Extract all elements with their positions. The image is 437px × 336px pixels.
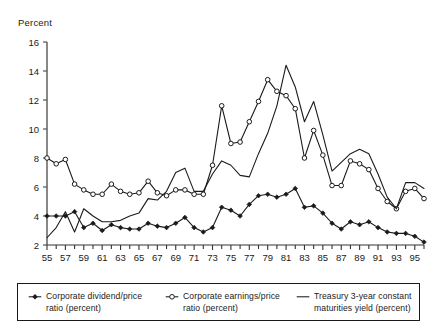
series-marker (339, 183, 344, 188)
legend-item: Corporate earnings/price ratio (percent) (165, 291, 280, 314)
x-axis: 5557596163656769717375777981838587899193… (42, 245, 424, 263)
series-marker (413, 186, 418, 191)
series-marker (72, 182, 77, 187)
series-marker (367, 167, 372, 172)
series-marker (54, 214, 59, 219)
x-axis-tick-label: 65 (134, 252, 145, 263)
series-marker (385, 230, 390, 235)
line-chart-plot: 246810121416 555759616365676971737577798… (0, 0, 437, 290)
series-marker (302, 156, 307, 161)
series-marker (422, 196, 427, 201)
data-series-group (45, 65, 427, 244)
x-axis-tick-label: 59 (78, 252, 89, 263)
series-marker (192, 192, 197, 197)
y-axis-tick-label: 16 (28, 37, 39, 48)
legend-item: Corporate dividend/price ratio (percent) (28, 291, 142, 314)
series-marker (63, 157, 68, 162)
series-marker (45, 214, 50, 219)
series-marker (118, 189, 123, 194)
series-marker (403, 231, 408, 236)
x-axis-tick-label: 73 (207, 252, 218, 263)
x-axis-tick-label: 55 (42, 252, 53, 263)
x-axis-tick-label: 63 (115, 252, 126, 263)
chart-series (45, 77, 427, 211)
series-marker (127, 227, 132, 232)
series-line (47, 80, 424, 209)
series-marker (118, 225, 123, 230)
open-circle-line-icon (165, 291, 179, 303)
x-axis-tick-label: 87 (336, 252, 347, 263)
x-axis-tick-label: 77 (244, 252, 255, 263)
series-marker (164, 225, 169, 230)
series-marker (45, 156, 50, 161)
series-marker (357, 162, 362, 167)
chart-series (47, 65, 424, 238)
x-axis-tick-label: 83 (299, 252, 310, 263)
series-marker (155, 191, 160, 196)
x-axis-tick-label: 75 (226, 252, 237, 263)
series-marker (100, 192, 105, 197)
series-marker (256, 99, 261, 104)
series-marker (247, 119, 252, 124)
x-axis-tick-label: 67 (152, 252, 163, 263)
series-marker (275, 195, 280, 200)
legend-item-label: Corporate earnings/price ratio (percent) (183, 291, 280, 314)
filled-diamond-line-icon (28, 291, 42, 303)
y-axis-unit-label: Percent (18, 17, 52, 28)
y-axis-tick-label: 4 (34, 211, 39, 222)
series-marker (91, 192, 96, 197)
series-marker (348, 159, 353, 164)
chart-figure: Percent 246810121416 5557596163656769717… (0, 0, 437, 336)
y-axis-tick-label: 2 (34, 240, 39, 251)
legend-item: Treasury 3-year constant maturities yiel… (296, 291, 412, 314)
y-axis-tick-label: 6 (34, 182, 39, 193)
series-marker (311, 128, 316, 133)
series-marker (357, 222, 362, 227)
series-marker (109, 182, 114, 187)
series-marker (265, 77, 270, 82)
x-axis-tick-label: 95 (410, 252, 421, 263)
y-axis-tick-label: 12 (28, 95, 39, 106)
series-marker (265, 192, 270, 197)
series-marker (403, 189, 408, 194)
series-marker (127, 192, 132, 197)
series-marker (146, 179, 151, 184)
x-axis-tick-label: 61 (97, 252, 108, 263)
series-line (47, 65, 424, 238)
series-marker (219, 104, 224, 109)
x-axis-tick-label: 81 (281, 252, 292, 263)
series-marker (275, 89, 280, 94)
x-axis-tick-label: 57 (60, 252, 71, 263)
x-axis-tick-label: 71 (189, 252, 200, 263)
series-marker (81, 225, 86, 230)
y-axis-tick-label: 14 (28, 66, 39, 77)
series-marker (376, 186, 381, 191)
series-marker (72, 209, 77, 214)
series-marker (210, 225, 215, 230)
x-axis-tick-label: 89 (354, 252, 365, 263)
legend-item-label: Treasury 3-year constant maturities yiel… (314, 291, 412, 314)
chart-legend: Corporate dividend/price ratio (percent)… (17, 283, 420, 321)
series-marker (284, 93, 289, 98)
legend-item-label: Corporate dividend/price ratio (percent) (46, 291, 142, 314)
x-axis-tick-label: 69 (170, 252, 181, 263)
series-marker (164, 193, 169, 198)
series-marker (321, 153, 326, 158)
y-axis: 246810121416 (28, 37, 47, 251)
series-marker (54, 162, 59, 167)
y-axis-tick-label: 10 (28, 124, 39, 135)
series-marker (238, 140, 243, 145)
series-marker (293, 106, 298, 111)
series-marker (229, 141, 234, 146)
series-marker (155, 224, 160, 229)
x-axis-tick-label: 91 (373, 252, 384, 263)
plain-line-icon (296, 291, 310, 303)
x-axis-tick-label: 93 (391, 252, 402, 263)
series-marker (302, 205, 307, 210)
series-marker (394, 231, 399, 236)
series-marker (201, 230, 206, 235)
series-marker (183, 188, 188, 193)
series-marker (219, 205, 224, 210)
series-marker (201, 192, 206, 197)
series-marker (210, 163, 215, 168)
